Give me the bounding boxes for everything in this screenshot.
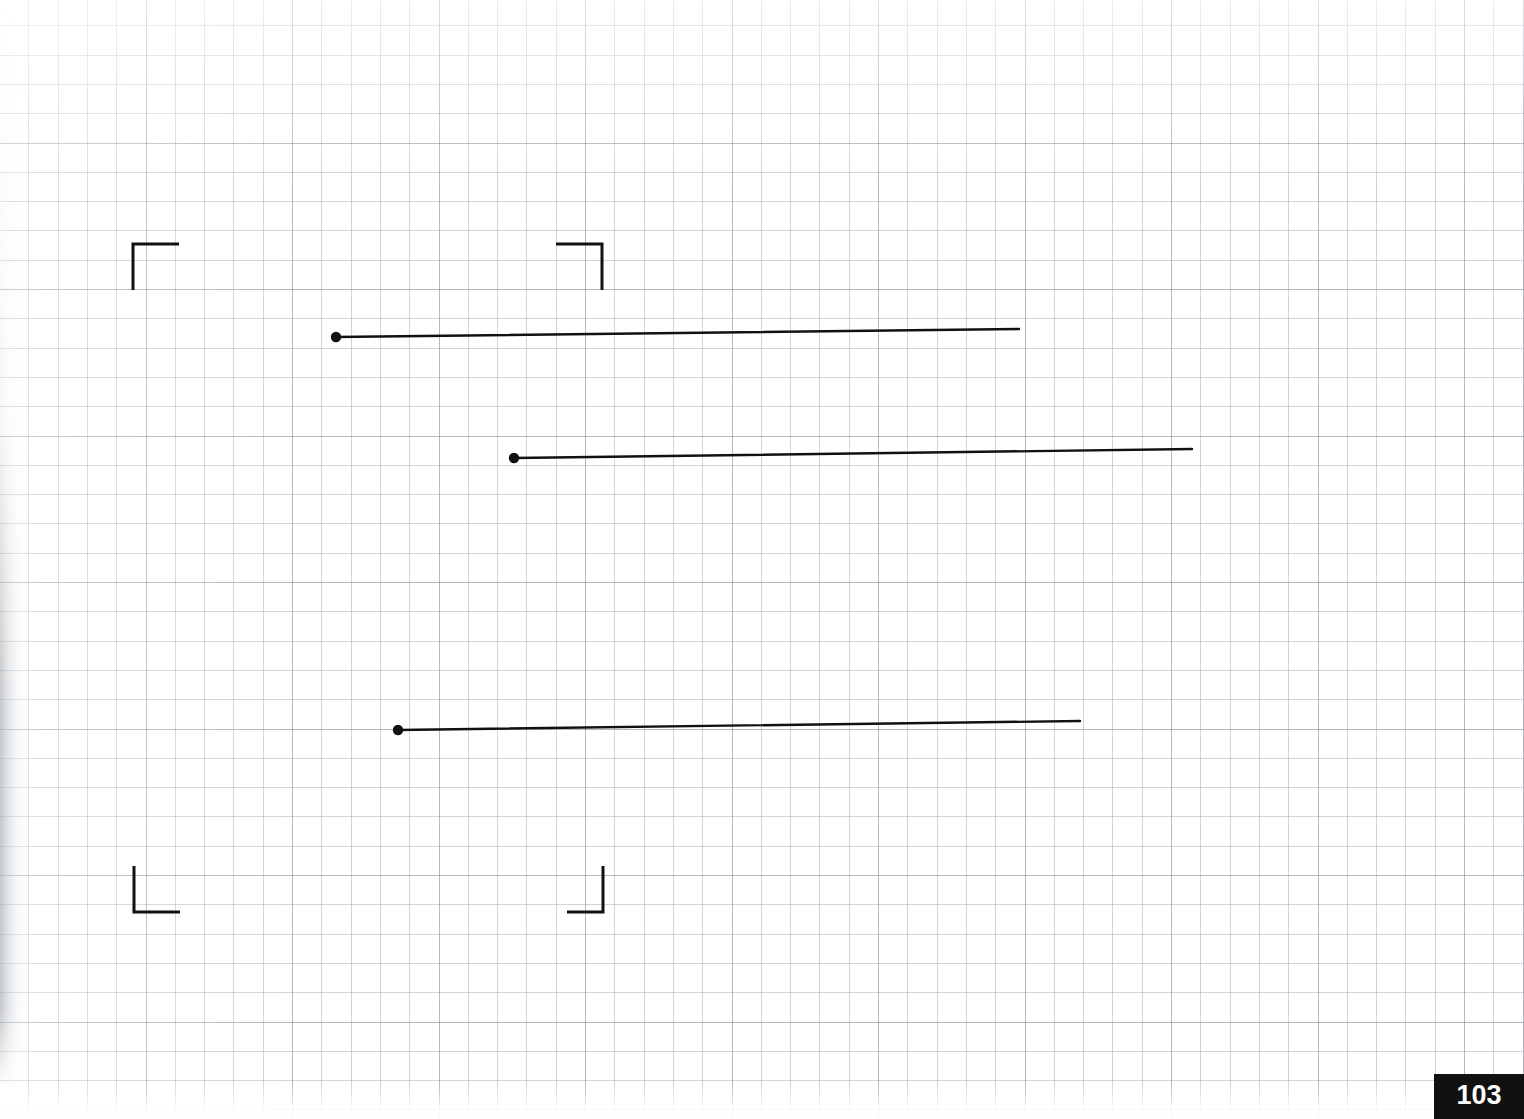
corner-mark-bottom-left-path [134, 866, 180, 912]
corner-mark-top-left [133, 244, 179, 290]
drawn-line-2-origin-dot [509, 453, 519, 463]
drawn-line-3 [393, 721, 1080, 735]
drawn-line-3-segment [398, 721, 1080, 730]
corner-mark-bottom-left [134, 866, 180, 912]
corner-mark-top-right-path [556, 244, 602, 290]
drawn-line-1 [331, 329, 1019, 342]
drawn-artwork-layer [0, 0, 1524, 1119]
page-number-text: 103 [1456, 1082, 1501, 1111]
drawn-line-2 [509, 449, 1192, 463]
drawn-line-3-origin-dot [393, 725, 403, 735]
graph-paper-page: 103 [0, 0, 1524, 1119]
drawn-line-1-segment [336, 329, 1019, 337]
drawn-line-1-origin-dot [331, 332, 341, 342]
corner-mark-top-left-path [133, 244, 179, 290]
drawn-line-2-segment [514, 449, 1192, 458]
corner-mark-bottom-right-path [567, 866, 603, 912]
corner-mark-top-right [556, 244, 602, 290]
page-number-badge: 103 [1434, 1074, 1524, 1119]
corner-mark-bottom-right [567, 866, 603, 912]
